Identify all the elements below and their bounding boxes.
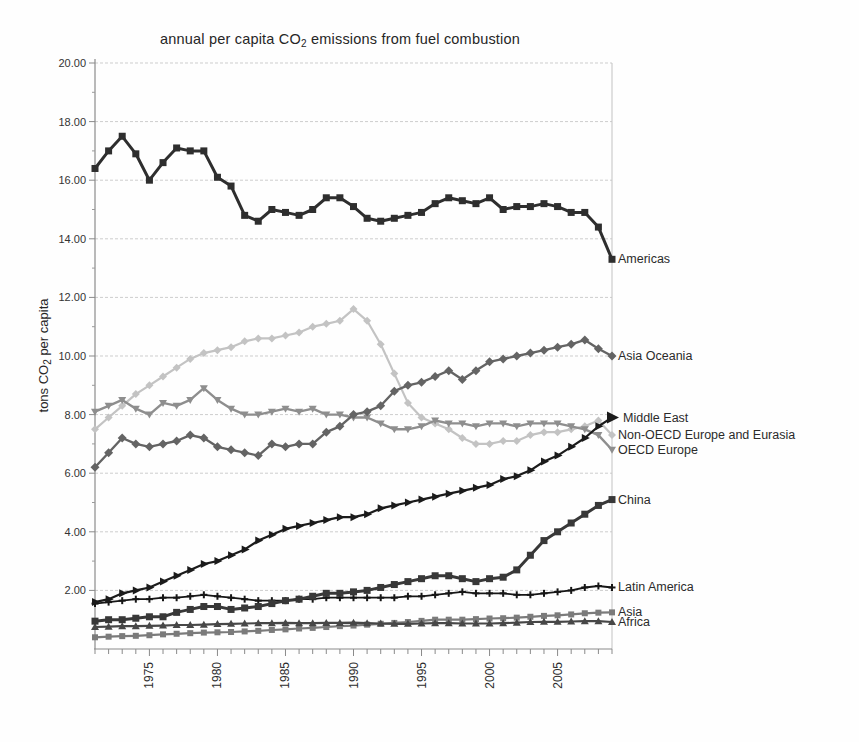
marker-diamond [539,346,548,355]
marker-square [500,574,507,581]
marker-square [513,566,520,573]
marker-square [146,632,152,638]
marker-square [241,604,248,611]
marker-square [200,603,207,610]
x-tick-label: 1985 [278,662,292,689]
marker-diamond [512,352,521,361]
marker-square [241,212,248,219]
y-axis-title-subscript: 2 [42,359,53,365]
marker-square [160,613,167,620]
marker-square [214,603,221,610]
marker-square [268,206,275,213]
marker-square [513,203,520,210]
marker-diamond [499,437,507,445]
marker-square [92,634,98,640]
marker-square [486,575,493,582]
marker-square [609,609,615,615]
marker-diamond [186,431,195,440]
marker-diamond [309,323,317,331]
chart-title-text: annual per capita CO [160,31,301,47]
marker-diamond [322,320,330,328]
marker-diamond [131,439,140,448]
marker-square [581,511,588,518]
marker-square [432,200,439,207]
marker-triangle-right [419,496,427,504]
chart-title: annual per capita CO2 emissions from fue… [10,31,670,49]
marker-square [133,633,139,639]
marker-square [554,203,561,210]
marker-square [391,215,398,222]
y-tick-label: 16.00 [58,174,86,186]
marker-diamond [608,352,617,361]
marker-square [595,224,602,231]
marker-square [146,177,153,184]
marker-triangle-right [391,501,399,509]
marker-square [268,600,275,607]
marker-diamond [431,372,440,381]
marker-square [228,629,234,635]
marker-square [269,627,275,633]
marker-square [486,194,493,201]
marker-triangle-right [446,490,454,498]
marker-square [582,610,588,616]
marker-square [309,206,316,213]
x-tick-label: 1980 [210,662,224,689]
marker-square [609,256,616,263]
marker-square [119,616,126,623]
marker-diamond [295,439,304,448]
marker-diamond [213,346,221,354]
marker-square [242,628,248,634]
marker-square [255,628,261,634]
series-line-asia-oceania [95,340,612,467]
marker-square [595,502,602,509]
marker-square [187,147,194,154]
marker-square [214,174,221,181]
marker-square [568,611,574,617]
marker-square [105,616,112,623]
x-tick-label: 1975 [142,662,156,689]
marker-square [119,633,125,639]
y-tick-label: 20.00 [58,57,86,69]
marker-square [132,615,139,622]
x-tick-label: 2000 [483,662,497,689]
marker-square [174,631,180,637]
series-line-middle-east [95,418,612,603]
y-axis-title-text-2: per capita [36,299,51,360]
y-tick-label: 12.00 [58,291,86,303]
marker-square [323,194,330,201]
chart-page: annual per capita CO2 emissions from fue… [0,0,859,742]
series-label-middle-east: Middle East [623,411,689,425]
y-tick-label: 18.00 [58,116,86,128]
y-axis-title: tons CO2 per capita [36,274,53,438]
marker-square [418,575,425,582]
marker-square [336,194,343,201]
marker-square [160,159,167,166]
marker-triangle-right [337,513,345,521]
x-tick-label: 2005 [551,662,565,689]
y-tick-label: 4.00 [65,526,86,538]
marker-triangle-down [608,447,616,454]
marker-triangle-right [459,487,467,495]
marker-square [391,581,398,588]
marker-diamond [295,329,303,337]
y-axis-title-text: tons CO [36,365,51,413]
marker-triangle-right [201,560,209,568]
marker-square [200,147,207,154]
marker-square [527,203,534,210]
marker-square [309,593,316,600]
marker-square [432,572,439,579]
marker-triangle-right [310,519,318,527]
marker-square [377,584,384,591]
y-tick-label: 10.00 [58,350,86,362]
marker-diamond [145,442,154,451]
marker-square [282,597,289,604]
marker-square [173,609,180,616]
marker-diamond [281,331,289,339]
y-tick-label: 2.00 [65,584,86,596]
marker-diamond [240,448,249,457]
marker-square [500,206,507,213]
marker-square [187,606,194,613]
marker-triangle-right [378,504,386,512]
marker-triangle-right [432,493,440,501]
marker-square [595,610,601,616]
